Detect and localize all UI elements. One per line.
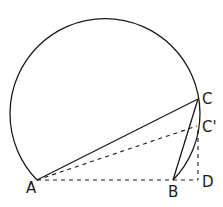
- label-C-prime: C': [202, 118, 217, 136]
- label-A: A: [26, 179, 37, 197]
- segment-CB: [173, 99, 198, 180]
- circle-arc: [10, 19, 200, 180]
- label-D: D: [202, 173, 214, 191]
- segment-AC-prime: [37, 126, 197, 180]
- label-B: B: [168, 183, 178, 201]
- segment-AC: [37, 99, 198, 180]
- geometry-diagram: A B C C' D: [0, 0, 223, 207]
- label-C: C: [202, 90, 212, 108]
